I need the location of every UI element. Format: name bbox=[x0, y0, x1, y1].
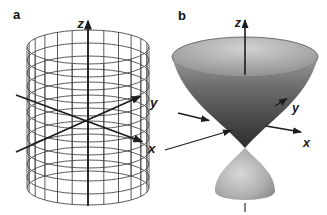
panel-a-cylinder-figure: a bbox=[0, 0, 163, 215]
x-axis-b-right bbox=[266, 126, 301, 132]
x-axis-label-b: x bbox=[302, 136, 311, 150]
y-axis-a bbox=[16, 97, 140, 153]
x-axis-label-a: x bbox=[147, 141, 156, 156]
y-axis-label-b: y bbox=[291, 101, 300, 115]
y-axis-label-a: y bbox=[149, 95, 159, 110]
x-axis-b-left bbox=[178, 113, 209, 121]
scientific-figure: a bbox=[0, 0, 327, 215]
panel-b-label: b bbox=[178, 8, 186, 23]
cone-lower-surface bbox=[215, 148, 275, 200]
panel-b-cone-figure: b z y x bbox=[163, 0, 327, 215]
z-axis-label-a: z bbox=[76, 16, 84, 31]
y-axis-b-left bbox=[165, 131, 231, 151]
z-axis-label-b: z bbox=[234, 16, 242, 30]
panel-a-label: a bbox=[13, 7, 21, 22]
